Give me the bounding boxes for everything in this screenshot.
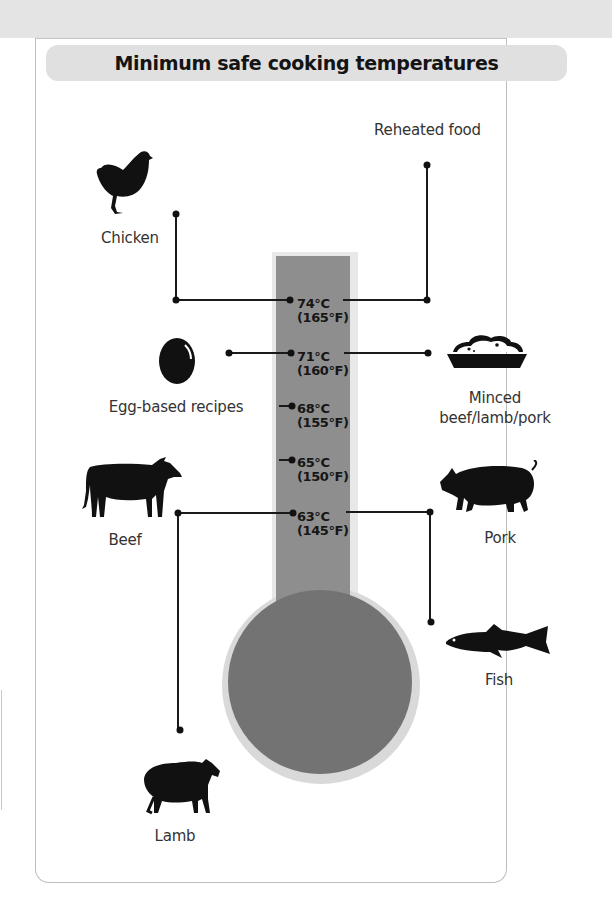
temp-label-68: 68°C (155°F) — [297, 402, 367, 430]
chicken-icon — [95, 150, 155, 216]
connector-dot — [427, 509, 434, 516]
connector-dot — [290, 510, 297, 517]
page-title: Minimum safe cooking temperatures — [114, 52, 498, 74]
egg-icon — [157, 337, 197, 385]
connector-dot — [177, 727, 184, 734]
temp-fahrenheit: (165°F) — [297, 311, 367, 325]
cow-icon — [82, 455, 186, 519]
connector-egg-horizontal — [229, 352, 290, 354]
label-fish: Fish — [472, 670, 526, 690]
connector-reheated-vertical — [426, 165, 428, 300]
connector-dot — [424, 162, 431, 169]
temp-label-71: 71°C (160°F) — [297, 350, 367, 378]
connector-chicken-horizontal — [175, 299, 290, 301]
label-minced-line2: beef/lamb/pork — [430, 408, 560, 428]
connector-pork-horizontal — [346, 511, 430, 513]
label-beef: Beef — [100, 530, 150, 550]
label-lamb: Lamb — [145, 826, 205, 846]
connector-dot — [173, 211, 180, 218]
label-minced: Minced beef/lamb/pork — [430, 388, 560, 428]
temp-label-65: 65°C (150°F) — [297, 456, 367, 484]
label-egg-based-recipes: Egg-based recipes — [95, 397, 257, 417]
connector-reheated-horizontal — [343, 299, 428, 301]
connector-dot — [288, 350, 295, 357]
temp-label-63: 63°C (145°F) — [297, 510, 367, 538]
page-background-band — [0, 0, 612, 38]
temp-label-74: 74°C (165°F) — [297, 297, 367, 325]
page-edge-rule — [1, 690, 2, 810]
label-reheated-food: Reheated food — [360, 120, 495, 140]
temp-fahrenheit: (150°F) — [297, 470, 367, 484]
temp-fahrenheit: (155°F) — [297, 416, 367, 430]
pig-icon — [440, 460, 540, 516]
temp-celsius: 65°C — [297, 456, 367, 470]
fish-icon — [446, 624, 552, 658]
temp-fahrenheit: (145°F) — [297, 524, 367, 538]
connector-dot — [289, 457, 296, 464]
sheep-icon — [140, 757, 222, 817]
connector-chicken-vertical — [175, 214, 177, 301]
connector-dot — [173, 297, 180, 304]
title-bar: Minimum safe cooking temperatures — [46, 45, 567, 81]
connector-fish-vertical — [429, 512, 431, 622]
connector-dot — [226, 350, 233, 357]
label-pork: Pork — [470, 528, 530, 548]
connector-dot — [287, 297, 294, 304]
thermometer-bulb — [228, 590, 412, 774]
label-chicken: Chicken — [90, 228, 170, 248]
temp-celsius: 68°C — [297, 402, 367, 416]
connector-dot — [428, 619, 435, 626]
connector-dot — [424, 297, 431, 304]
temp-fahrenheit: (160°F) — [297, 364, 367, 378]
minced-meat-dish-icon — [447, 332, 527, 372]
connector-lamb-vertical — [177, 513, 179, 730]
connector-minced-horizontal — [344, 352, 428, 354]
connector-dot — [425, 350, 432, 357]
connector-dot — [289, 403, 296, 410]
label-minced-line1: Minced — [430, 388, 560, 408]
connector-beef-horizontal — [178, 512, 293, 514]
